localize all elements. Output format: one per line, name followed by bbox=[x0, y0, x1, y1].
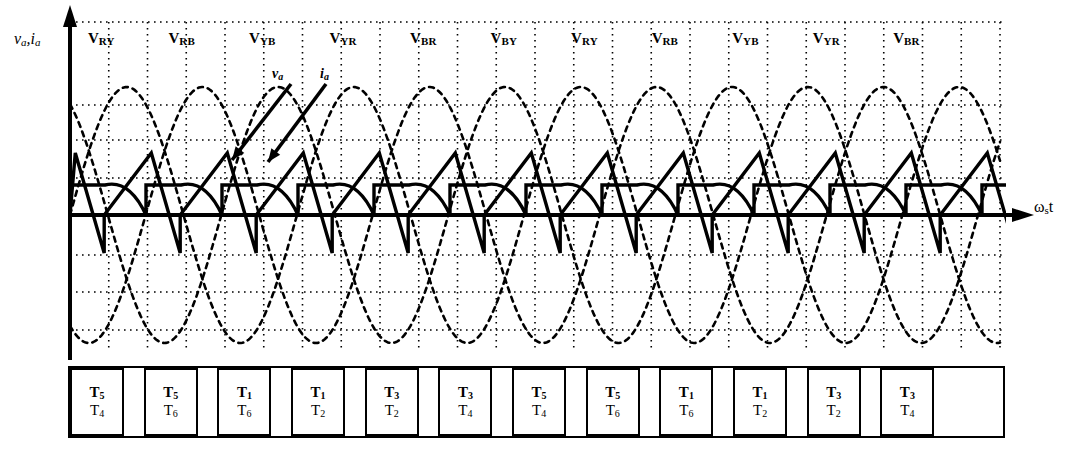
interval-label-subscript: RB bbox=[662, 35, 678, 47]
conduction-lower-device: T4 bbox=[900, 402, 914, 420]
device-letter: T bbox=[385, 402, 394, 418]
annotation-arrows bbox=[232, 84, 326, 162]
interval-label-main: V bbox=[410, 30, 421, 46]
interval-label-yr-3: VYR bbox=[330, 30, 357, 47]
device-number: 5 bbox=[615, 390, 620, 401]
device-number: 3 bbox=[394, 390, 399, 401]
figure-canvas: va,ia ωst VRYVRBVYBVYRVBRVBYVRYVRBVYBVYR… bbox=[0, 0, 1076, 460]
device-number: 1 bbox=[321, 390, 326, 401]
x-axis-label: ωst bbox=[1034, 198, 1053, 216]
interval-label-br-10: VBR bbox=[893, 30, 920, 47]
device-letter: T bbox=[753, 384, 763, 400]
va-annotation: va bbox=[272, 66, 283, 82]
conduction-cell-3: T1T2 bbox=[291, 368, 345, 436]
conduction-cell-2: T1T6 bbox=[217, 368, 271, 436]
device-number: 2 bbox=[836, 408, 841, 419]
interval-label-subscript: BR bbox=[421, 35, 437, 47]
annotation-subscript: a bbox=[278, 71, 283, 82]
conduction-upper-device: T1 bbox=[753, 384, 768, 402]
interval-label-subscript: RY bbox=[582, 35, 598, 47]
device-number: 2 bbox=[320, 408, 325, 419]
interval-label-main: V bbox=[88, 30, 99, 46]
device-number: 3 bbox=[910, 390, 915, 401]
interval-label-main: V bbox=[813, 30, 824, 46]
device-number: 6 bbox=[615, 408, 620, 419]
conduction-cell-0: T5T4 bbox=[70, 368, 124, 436]
conduction-cell-8: T1T6 bbox=[659, 368, 713, 436]
device-letter: T bbox=[163, 384, 173, 400]
device-number: 5 bbox=[173, 390, 178, 401]
interval-label-subscript: RY bbox=[99, 35, 115, 47]
interval-label-main: V bbox=[330, 30, 341, 46]
device-letter: T bbox=[679, 384, 689, 400]
conduction-cell-4: T3T2 bbox=[365, 368, 419, 436]
interval-label-subscript: YR bbox=[824, 35, 840, 47]
conduction-lower-device: T6 bbox=[237, 402, 251, 420]
interval-label-rb-1: VRB bbox=[169, 30, 196, 47]
interval-label-ry-0: VRY bbox=[88, 30, 115, 47]
interval-label-yb-8: VYB bbox=[732, 30, 759, 47]
conduction-lower-device: T4 bbox=[90, 402, 104, 420]
conduction-lower-device: T6 bbox=[679, 402, 693, 420]
conduction-lower-device: T2 bbox=[827, 402, 841, 420]
conduction-upper-device: T3 bbox=[458, 384, 473, 402]
conduction-lower-device: T6 bbox=[164, 402, 178, 420]
conduction-upper-device: T1 bbox=[679, 384, 694, 402]
conduction-upper-device: T3 bbox=[900, 384, 915, 402]
interval-label-yr-9: VYR bbox=[813, 30, 840, 47]
device-letter: T bbox=[753, 402, 762, 418]
interval-label-main: V bbox=[652, 30, 663, 46]
conduction-cell-5: T3T4 bbox=[438, 368, 492, 436]
device-number: 5 bbox=[100, 390, 105, 401]
conduction-upper-device: T3 bbox=[826, 384, 841, 402]
conduction-cell-10: T3T2 bbox=[807, 368, 861, 436]
conduction-lower-device: T4 bbox=[458, 402, 472, 420]
interval-label-main: V bbox=[732, 30, 743, 46]
device-number: 4 bbox=[909, 408, 914, 419]
device-letter: T bbox=[827, 402, 836, 418]
conduction-upper-device: T5 bbox=[605, 384, 620, 402]
interval-label-br-4: VBR bbox=[410, 30, 437, 47]
conduction-lower-device: T4 bbox=[532, 402, 546, 420]
device-letter: T bbox=[164, 402, 173, 418]
conduction-cell-1: T5T6 bbox=[144, 368, 198, 436]
conduction-upper-device: T5 bbox=[532, 384, 547, 402]
conduction-lower-device: T2 bbox=[753, 402, 767, 420]
device-number: 1 bbox=[689, 390, 694, 401]
device-number: 2 bbox=[394, 408, 399, 419]
device-letter: T bbox=[900, 384, 910, 400]
device-number: 6 bbox=[688, 408, 693, 419]
conduction-upper-device: T1 bbox=[237, 384, 252, 402]
conduction-upper-device: T1 bbox=[311, 384, 326, 402]
device-letter: T bbox=[605, 384, 615, 400]
device-letter: T bbox=[311, 402, 320, 418]
interval-label-subscript: YR bbox=[340, 35, 356, 47]
device-letter: T bbox=[532, 384, 542, 400]
interval-label-main: V bbox=[571, 30, 582, 46]
interval-label-main: V bbox=[249, 30, 260, 46]
interval-label-subscript: BY bbox=[501, 35, 517, 47]
interval-label-subscript: BR bbox=[904, 35, 920, 47]
conduction-upper-device: T5 bbox=[163, 384, 178, 402]
conduction-cell-11: T3T4 bbox=[880, 368, 934, 436]
interval-label-yb-2: VYB bbox=[249, 30, 276, 47]
output-waveforms bbox=[70, 153, 1058, 253]
conduction-upper-device: T5 bbox=[90, 384, 105, 402]
interval-label-rb-7: VRB bbox=[652, 30, 679, 47]
device-number: 6 bbox=[173, 408, 178, 419]
conduction-cell-9: T1T2 bbox=[733, 368, 787, 436]
device-letter: T bbox=[311, 384, 321, 400]
device-letter: T bbox=[606, 402, 615, 418]
device-letter: T bbox=[826, 384, 836, 400]
interval-label-subscript: RB bbox=[179, 35, 195, 47]
device-letter: T bbox=[237, 384, 247, 400]
device-letter: T bbox=[532, 402, 541, 418]
conduction-lower-device: T2 bbox=[385, 402, 399, 420]
device-number: 5 bbox=[542, 390, 547, 401]
interval-label-main: V bbox=[169, 30, 180, 46]
device-letter: T bbox=[90, 402, 99, 418]
interval-label-by-5: VBY bbox=[491, 30, 518, 47]
ia-annotation: ia bbox=[320, 66, 329, 82]
device-number: 6 bbox=[246, 408, 251, 419]
interval-label-main: V bbox=[893, 30, 904, 46]
